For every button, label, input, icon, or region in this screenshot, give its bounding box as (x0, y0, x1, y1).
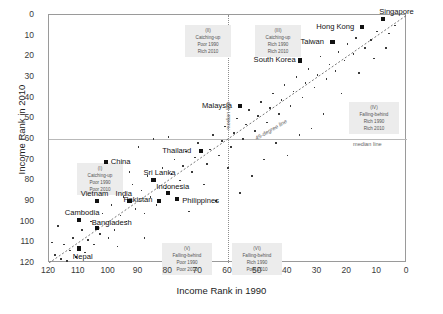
x-tick-20: 20 (332, 266, 360, 275)
country-label-thailand: Thailand (162, 147, 191, 155)
country-label-philippines: Philippines (182, 197, 219, 205)
x-tick-80: 80 (153, 266, 181, 275)
x-tick-50: 50 (243, 266, 271, 275)
country-label-singapore: Singapore (379, 8, 414, 16)
y-tick-100: 100 (8, 217, 34, 226)
x-tick-60: 60 (213, 266, 241, 275)
country-label-china: China (111, 158, 131, 166)
x-tick-120: 120 (34, 266, 62, 275)
country-labels-layer: SingaporeHong KongTaiwanSouth KoreaMalay… (49, 15, 405, 261)
country-label-india: India (116, 190, 132, 198)
country-label-nepal: Nepal (73, 253, 93, 261)
country-label-south-korea: South Korea (254, 56, 296, 64)
y-axis-title: Income Rank in 2010 (16, 45, 27, 215)
x-tick-90: 90 (124, 266, 152, 275)
country-label-vietnam: Vietnam (81, 190, 109, 198)
x-tick-30: 30 (303, 266, 331, 275)
country-label-indonesia: Indonesia (156, 183, 189, 191)
y-tick-0: 0 (8, 10, 34, 19)
country-label-cambodia: Cambodia (65, 209, 100, 217)
x-tick-70: 70 (183, 266, 211, 275)
x-tick-0: 0 (392, 266, 420, 275)
plot-area: median linemedian line45-degree line (I)… (48, 14, 406, 262)
x-tick-10: 10 (362, 266, 390, 275)
y-tick-120: 120 (8, 258, 34, 267)
x-axis-title: Income Rank in 1990 (0, 285, 443, 296)
country-label-hong-kong: Hong Kong (316, 23, 354, 31)
y-tick-110: 110 (8, 237, 34, 246)
scatter-chart-figure: 0102030405060708090100110120 Income Rank… (0, 0, 443, 314)
country-label-bangladesh: Bangladesh (92, 219, 132, 227)
y-tick-10: 10 (8, 31, 34, 40)
country-label-malaysia: Malaysia (202, 102, 232, 110)
x-tick-110: 110 (64, 266, 92, 275)
country-label-taiwan: Taiwan (300, 38, 324, 46)
country-label-sri-lanka: Sri Lanka (143, 169, 175, 177)
x-tick-100: 100 (94, 266, 122, 275)
x-tick-40: 40 (273, 266, 301, 275)
